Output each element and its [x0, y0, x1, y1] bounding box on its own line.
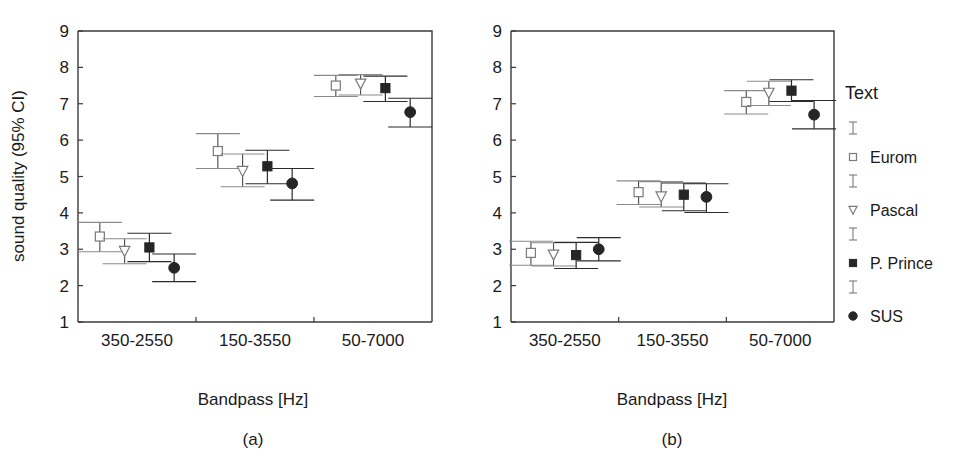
marker-open-triangle-down	[656, 192, 666, 202]
errorbar-icon	[849, 122, 857, 134]
series-a-eurom	[78, 75, 358, 251]
x-tick-label-a-0: 350-2550	[101, 331, 173, 350]
y-tick-label-b-1: 1	[493, 313, 502, 332]
legend-title: Text	[845, 83, 878, 103]
panel-caption-a: (a)	[243, 430, 264, 449]
datapoint-a-0-2	[127, 233, 171, 261]
legend-item-sus[interactable]: SUS	[849, 281, 903, 325]
datapoint-b-0-3	[577, 238, 621, 261]
y-tick-label-b-9: 9	[493, 22, 502, 41]
marker-filled-square	[679, 190, 688, 199]
legend-marker-filled-square	[849, 259, 856, 266]
marker-filled-square	[381, 84, 390, 93]
legend-label-pascal: Pascal	[870, 202, 918, 219]
y-tick-label-a-2: 2	[60, 277, 69, 296]
legend-item-pascal[interactable]: Pascal	[849, 175, 918, 219]
marker-open-square	[850, 154, 857, 161]
y-tick-label-b-3: 3	[493, 240, 502, 259]
legend-marker-filled-circle	[849, 312, 857, 320]
marker-filled-square	[263, 162, 272, 171]
series-b-pprince	[554, 80, 813, 269]
x-tick-label-a-2: 50-7000	[342, 331, 404, 350]
marker-filled-circle	[593, 244, 604, 255]
marker-open-square	[634, 188, 643, 197]
series-b-eurom	[509, 91, 768, 266]
marker-open-square	[526, 248, 535, 257]
marker-open-triangle-down	[355, 79, 365, 89]
y-tick-label-b-2: 2	[493, 277, 502, 296]
errorbar-icon	[849, 175, 857, 187]
y-tick-label-a-3: 3	[60, 240, 69, 259]
marker-filled-circle	[849, 312, 857, 320]
datapoint-a-1-2	[245, 150, 289, 183]
datapoint-b-2-0	[724, 91, 768, 114]
y-tick-label-b-6: 6	[493, 131, 502, 150]
datapoint-b-1-0	[617, 181, 661, 205]
chart-svg: 123456789350-2550150-355050-7000Bandpass…	[0, 0, 960, 466]
marker-open-square	[331, 81, 340, 90]
y-tick-label-a-5: 5	[60, 168, 69, 187]
datapoint-a-2-1	[339, 75, 383, 95]
x-tick-label-b-0: 350-2550	[529, 331, 601, 350]
marker-filled-square	[787, 86, 796, 95]
y-axis-title: sound quality (95% CI)	[9, 90, 28, 262]
legend-item-pprince[interactable]: P. Prince	[849, 228, 933, 272]
panel-a: 123456789350-2550150-355050-7000Bandpass…	[60, 22, 433, 449]
datapoint-b-0-0	[509, 241, 553, 265]
y-tick-label-a-9: 9	[60, 22, 69, 41]
y-tick-label-b-8: 8	[493, 58, 502, 77]
panel-caption-b: (b)	[662, 430, 683, 449]
marker-open-triangle-down	[548, 250, 558, 260]
datapoint-b-2-3	[792, 100, 836, 128]
marker-open-triangle-down	[764, 88, 774, 98]
y-tick-label-a-4: 4	[60, 204, 69, 223]
y-tick-label-a-1: 1	[60, 313, 69, 332]
datapoint-b-0-1	[532, 243, 576, 266]
legend-label-sus: SUS	[870, 308, 903, 325]
errorbar-icon	[849, 228, 857, 240]
panel-b: 123456789350-2550150-355050-7000Bandpass…	[493, 22, 837, 449]
marker-filled-circle	[809, 109, 820, 120]
legend-marker-open-square	[850, 154, 857, 161]
datapoint-b-1-1	[639, 182, 683, 207]
datapoint-a-2-3	[388, 98, 432, 127]
marker-open-triangle-down	[849, 206, 857, 214]
marker-filled-circle	[169, 262, 180, 273]
plot-frame-b	[511, 31, 834, 322]
errorbar-icon	[849, 281, 857, 293]
marker-open-triangle-down	[237, 166, 247, 176]
x-tick-label-b-1: 150-3550	[637, 331, 709, 350]
series-a-sus	[152, 98, 432, 281]
x-axis-title-a: Bandpass [Hz]	[198, 390, 309, 409]
marker-filled-square	[572, 250, 581, 259]
datapoint-b-1-3	[684, 184, 728, 213]
x-axis-title-b: Bandpass [Hz]	[617, 390, 728, 409]
datapoint-a-2-0	[314, 75, 358, 96]
x-tick-label-a-1: 150-3550	[219, 331, 291, 350]
legend-label-pprince: P. Prince	[870, 255, 933, 272]
figure-container: 123456789350-2550150-355050-7000Bandpass…	[0, 0, 960, 466]
datapoint-b-0-2	[554, 242, 598, 268]
marker-filled-circle	[701, 191, 712, 202]
marker-filled-circle	[405, 107, 416, 118]
y-tick-label-a-7: 7	[60, 95, 69, 114]
legend-item-eurom[interactable]: Eurom	[849, 122, 917, 166]
marker-filled-circle	[287, 178, 298, 189]
datapoint-a-1-1	[221, 154, 265, 187]
datapoint-a-0-3	[152, 254, 196, 282]
y-tick-label-b-7: 7	[493, 95, 502, 114]
marker-filled-square	[145, 243, 154, 252]
datapoint-a-0-0	[78, 222, 122, 251]
legend-label-eurom: Eurom	[870, 149, 917, 166]
marker-open-square	[95, 232, 104, 241]
series-b-pascal	[532, 81, 791, 266]
y-tick-label-a-8: 8	[60, 58, 69, 77]
datapoint-a-1-0	[196, 134, 240, 169]
marker-filled-square	[849, 259, 856, 266]
x-tick-label-b-2: 50-7000	[749, 331, 811, 350]
legend-marker-open-triangle-down	[849, 206, 857, 214]
series-b-sus	[577, 100, 836, 260]
y-tick-label-b-5: 5	[493, 168, 502, 187]
y-tick-label-a-6: 6	[60, 131, 69, 150]
series-a-pprince	[127, 76, 407, 262]
